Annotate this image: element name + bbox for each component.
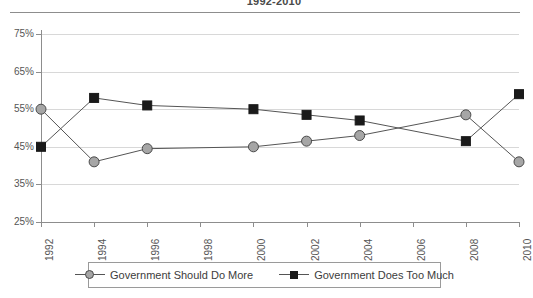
chart-legend: Government Should Do MoreGovernment Does… (88, 262, 441, 288)
y-tick-label: 75% (0, 29, 34, 39)
x-tick-mark (147, 222, 148, 227)
y-tick-label: 35% (0, 179, 34, 189)
plot-area (41, 34, 519, 222)
x-tick-label: 2008 (470, 239, 480, 261)
x-tick-label: 1996 (151, 239, 161, 261)
y-tick-label: 65% (0, 67, 34, 77)
x-tick-label: 2004 (364, 239, 374, 261)
gridline (41, 109, 519, 110)
legend-entry[interactable]: Government Should Do More (75, 269, 253, 281)
gridline (41, 184, 519, 185)
legend-label: Government Does Too Much (314, 269, 454, 281)
legend-marker (290, 271, 298, 279)
x-axis-line (41, 222, 519, 223)
y-tick-mark (36, 109, 41, 110)
x-tick-mark (253, 222, 254, 227)
x-tick-label: 1992 (45, 239, 55, 261)
x-tick-label: 1994 (98, 239, 108, 261)
x-tick-mark (41, 222, 42, 227)
legend-label: Government Should Do More (110, 269, 253, 281)
y-tick-mark (36, 147, 41, 148)
x-tick-mark (413, 222, 414, 227)
x-tick-label: 2000 (257, 239, 267, 261)
x-tick-mark (519, 222, 520, 227)
y-tick-mark (36, 184, 41, 185)
x-tick-label: 2002 (311, 239, 321, 261)
x-tick-label: 2006 (417, 239, 427, 261)
y-tick-mark (36, 72, 41, 73)
y-tick-mark (36, 34, 41, 35)
x-tick-mark (307, 222, 308, 227)
x-tick-mark (94, 222, 95, 227)
x-tick-label: 2010 (523, 239, 533, 261)
legend-square-icon (279, 269, 309, 281)
x-tick-label: 1998 (204, 239, 214, 261)
y-axis-line (41, 30, 42, 226)
x-tick-mark (360, 222, 361, 227)
legend-circle-icon (75, 269, 105, 281)
x-tick-mark (200, 222, 201, 227)
title-divider (10, 12, 520, 13)
legend-entry[interactable]: Government Does Too Much (279, 269, 454, 281)
legend-marker (85, 270, 94, 279)
gridline (41, 147, 519, 148)
gridline (41, 34, 519, 35)
chart-title: 1992-2010 (0, 0, 528, 7)
gridline (41, 72, 519, 73)
y-tick-label: 55% (0, 104, 34, 114)
y-tick-label: 45% (0, 142, 34, 152)
y-tick-label: 25% (0, 217, 34, 227)
x-tick-mark (466, 222, 467, 227)
